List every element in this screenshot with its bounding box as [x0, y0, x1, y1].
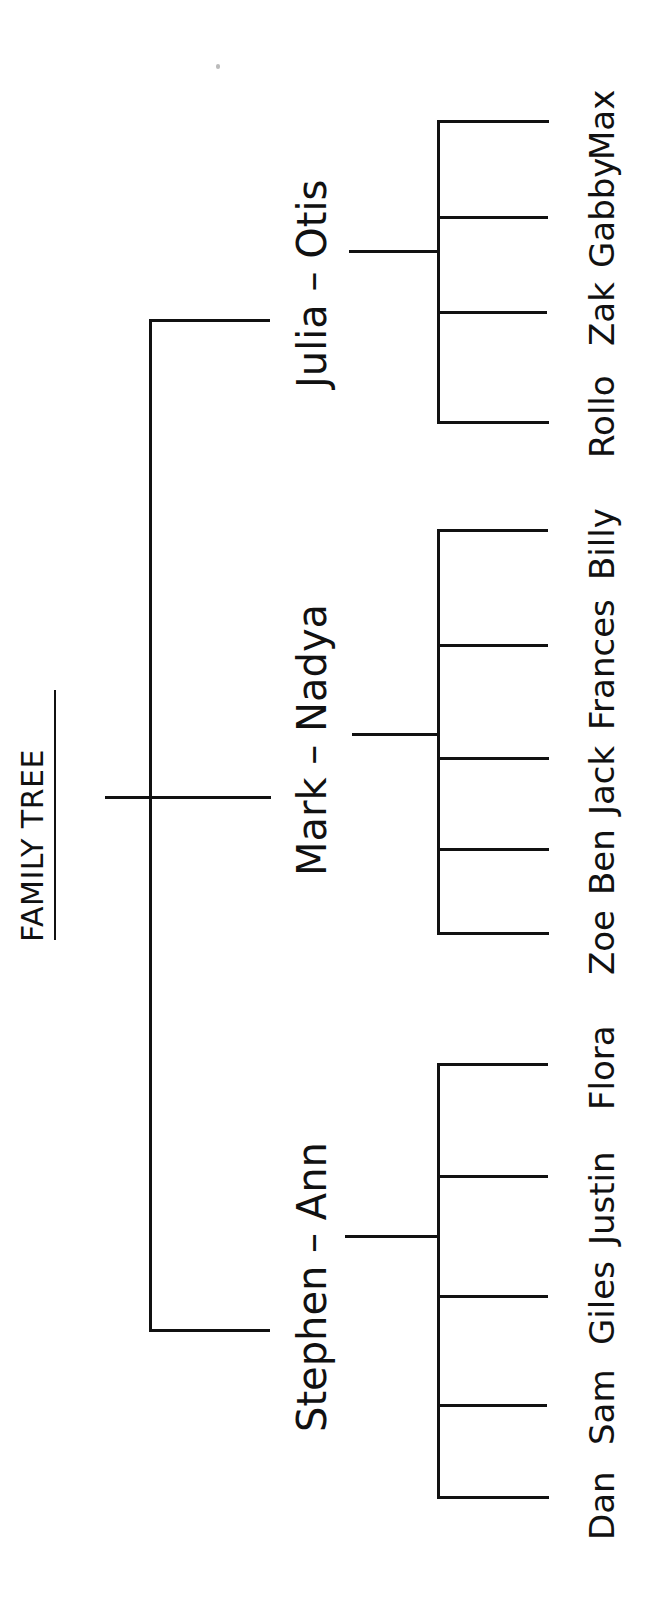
child-line-gabby	[437, 216, 548, 219]
couple-julia-otis: Julia – Otis	[292, 180, 332, 388]
stephen-children-connector	[345, 1235, 439, 1238]
child-line-zoe	[437, 932, 549, 935]
child-name-dan: Dan	[585, 1471, 619, 1540]
child-line-zak	[437, 311, 547, 314]
child-line-giles	[437, 1295, 548, 1298]
child-name-billy: Billy	[585, 508, 619, 580]
child-name-giles: Giles	[585, 1261, 619, 1345]
child-name-frances: Frances	[585, 599, 619, 730]
child-name-max: Max	[585, 90, 619, 160]
child-line-flora	[437, 1063, 548, 1066]
child-line-rollo	[437, 421, 549, 424]
child-line-ben	[437, 848, 549, 851]
branch-stephen	[149, 1329, 270, 1332]
child-name-gabby: Gabby	[585, 158, 619, 268]
julia-children-connector	[349, 250, 439, 253]
diagram-title: FAMILY TREE	[18, 749, 48, 942]
stephen-children-spine	[437, 1063, 440, 1498]
branch-julia	[149, 319, 270, 322]
child-name-justin: Justin	[585, 1151, 619, 1245]
child-name-rollo: Rollo	[585, 375, 619, 458]
julia-children-spine	[437, 120, 440, 424]
mark-children-spine	[437, 529, 440, 935]
child-name-sam: Sam	[585, 1369, 619, 1445]
child-name-flora: Flora	[585, 1025, 619, 1110]
child-line-jack	[437, 757, 549, 760]
child-name-zak: Zak	[585, 282, 619, 346]
child-line-max	[437, 120, 549, 123]
child-line-billy	[437, 529, 548, 532]
child-line-dan	[437, 1496, 549, 1499]
paper-speck	[216, 64, 220, 69]
mark-children-connector	[352, 733, 439, 736]
child-line-frances	[437, 644, 548, 647]
child-name-ben: Ben	[585, 829, 619, 895]
root-spine	[149, 319, 152, 1332]
child-name-jack: Jack	[585, 746, 619, 815]
title-underline	[54, 690, 56, 940]
child-name-zoe: Zoe	[585, 910, 619, 975]
couple-stephen-ann: Stephen – Ann	[292, 1142, 332, 1432]
child-line-justin	[437, 1175, 548, 1178]
root-connector	[105, 796, 271, 799]
child-line-sam	[437, 1404, 547, 1407]
couple-mark-nadya: Mark – Nadya	[292, 604, 332, 876]
